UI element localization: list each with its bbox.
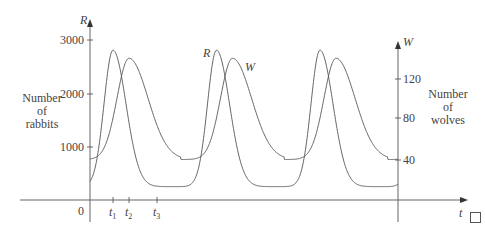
curve-w-label: W	[245, 61, 255, 74]
rabbit-curve	[90, 50, 398, 186]
origin-label: 0	[78, 205, 84, 218]
left-tick-3000: 3000	[60, 34, 84, 47]
t-axis-arrow-icon	[460, 197, 468, 203]
left-tick-1000: 1000	[60, 141, 84, 154]
t1-label: t1	[109, 206, 116, 223]
wolves-caption: Number of wolves	[424, 88, 472, 127]
curve-r-label: R	[203, 47, 210, 60]
wolves-caption-line3: wolves	[424, 114, 472, 127]
right-tick-40: 40	[403, 154, 415, 167]
r-axis-arrow-icon	[87, 19, 93, 27]
rabbits-caption-line3: rabbits	[18, 118, 66, 131]
wolf-curve	[90, 58, 398, 159]
t-axis-label: t	[459, 207, 462, 220]
t3-label: t3	[153, 206, 160, 223]
w-axis-label: W	[403, 36, 413, 49]
r-axis-label: R	[80, 14, 87, 27]
end-of-proof-box-icon	[470, 212, 481, 223]
right-tick-120: 120	[403, 73, 421, 86]
right-tick-80: 80	[403, 112, 415, 125]
w-axis-arrow-icon	[395, 41, 401, 49]
rabbits-caption: Number of rabbits	[18, 92, 66, 131]
t2-label: t2	[125, 206, 132, 223]
